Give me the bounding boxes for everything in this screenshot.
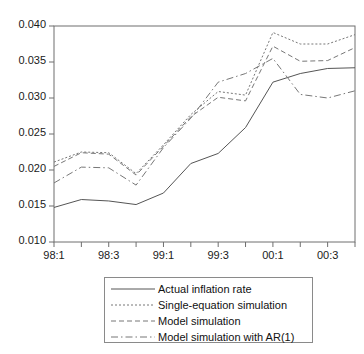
legend-item: Single-equation simulation <box>105 297 287 313</box>
legend-line-sample <box>111 283 155 295</box>
y-axis-tick-label: 0.040 <box>18 18 46 30</box>
chart-legend: Actual inflation rateSingle-equation sim… <box>104 277 313 343</box>
legend-item: Model simulation with AR(1) <box>105 329 294 345</box>
x-axis-tick-label: 99:3 <box>193 249 243 261</box>
legend-item: Model simulation <box>105 313 241 329</box>
y-axis-tick-label: 0.010 <box>18 234 46 246</box>
series-line-2 <box>54 46 355 175</box>
legend-item-label: Model simulation <box>158 315 241 327</box>
series-line-0 <box>54 68 355 208</box>
series-line-1 <box>54 32 355 173</box>
plot-frame <box>54 26 355 242</box>
y-axis-tick-label: 0.030 <box>18 90 46 102</box>
legend-item-label: Single-equation simulation <box>158 299 287 311</box>
legend-line-sample <box>111 299 155 311</box>
x-axis-ticks <box>54 242 355 247</box>
chart-figure: 0.0400.0350.0300.0250.0200.0150.010 98:1… <box>0 0 364 354</box>
y-axis-tick-label: 0.025 <box>18 126 46 138</box>
x-axis-tick-label: 98:3 <box>84 249 134 261</box>
legend-line-sample <box>111 331 155 343</box>
y-axis-tick-label: 0.035 <box>18 54 46 66</box>
y-axis-ticks <box>49 26 54 242</box>
legend-line-sample <box>111 315 155 327</box>
y-axis-tick-label: 0.020 <box>18 162 46 174</box>
legend-item-label: Actual inflation rate <box>158 283 252 295</box>
x-axis-tick-label: 98:1 <box>29 249 79 261</box>
legend-item-label: Model simulation with AR(1) <box>158 331 294 343</box>
y-axis-tick-label: 0.015 <box>18 198 46 210</box>
x-axis-tick-label: 00:3 <box>303 249 353 261</box>
x-axis-tick-label: 00:1 <box>248 249 298 261</box>
x-axis-tick-label: 99:1 <box>138 249 188 261</box>
data-series-group <box>54 32 355 207</box>
legend-item: Actual inflation rate <box>105 281 252 297</box>
series-line-3 <box>54 58 355 185</box>
